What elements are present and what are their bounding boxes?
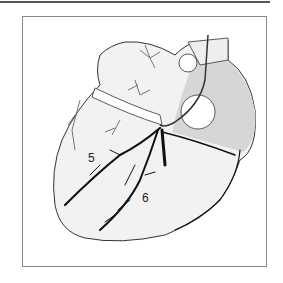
label-5: 5: [88, 151, 95, 165]
label-6: 6: [142, 191, 149, 205]
heart-illustration: [0, 0, 283, 283]
